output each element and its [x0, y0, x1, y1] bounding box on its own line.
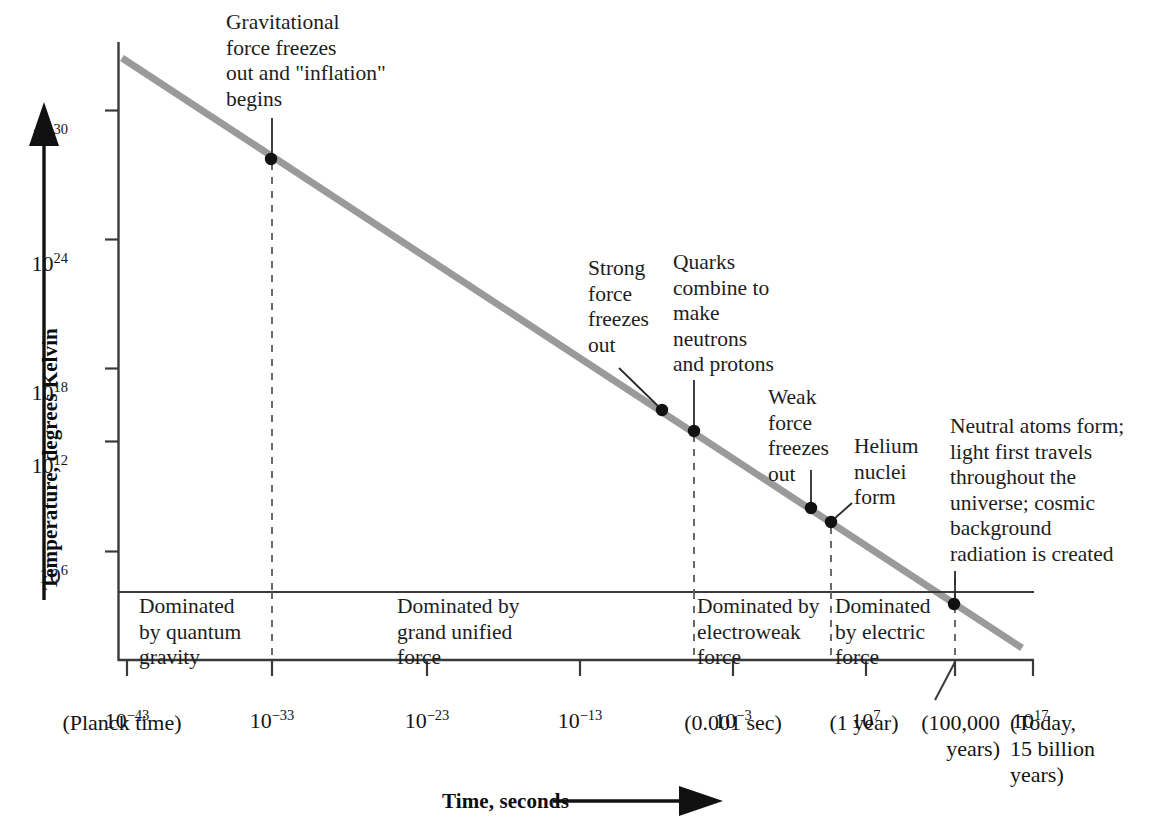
marker-neutral-atoms-form [948, 598, 960, 610]
x-tick-label-1e-33: 10−33 [250, 682, 295, 734]
marker-gravitational-force-freezes-out [265, 153, 277, 165]
x-tick-sublabel-0001-sec: (0.001 sec) [684, 710, 782, 736]
tick-leader-100000-years [935, 662, 955, 700]
y-tick-label-1e24: 1024 [31, 225, 68, 277]
region-label-electroweak-force: Dominated by electroweak force [697, 594, 819, 671]
annotation-weak-force-freezes-out: Weak force freezes out [768, 385, 829, 487]
x-tick-sublabel-today: (Today, 15 billion years) [1010, 710, 1095, 788]
region-label-quantum-gravity: Dominated by quantum gravity [139, 594, 241, 671]
x-tick-label-1e-23: 10−23 [405, 682, 450, 734]
region-label-grand-unified-force: Dominated by grand unified force [397, 594, 519, 671]
y-tick-label-1e30: 1030 [31, 96, 68, 148]
annotation-strong-force-freezes-out: Strong force freezes out [588, 256, 649, 358]
y-axis-ticks [105, 111, 119, 552]
marker-weak-force-freezes-out [805, 502, 817, 514]
x-tick-sublabel-1-year: (1 year) [829, 710, 898, 736]
x-axis-arrow [553, 786, 723, 816]
marker-quarks-combine [688, 425, 700, 437]
x-tick-label-1e-13: 10−13 [558, 682, 603, 734]
y-axis-title: Temperature, degrees Kelvin [38, 328, 63, 590]
event-solid-leaders [272, 118, 955, 600]
marker-helium-nuclei-form [825, 516, 837, 528]
annotation-quarks-combine: Quarks combine to make neutrons and prot… [673, 250, 774, 378]
x-tick-sublabel-planck-time: (Planck time) [62, 710, 181, 736]
marker-strong-force-freezes-out [656, 404, 668, 416]
annotation-gravitational-force-freezes-out: Gravitational force freezes out and "inf… [226, 10, 386, 112]
temperature-curve [122, 58, 1022, 648]
annotation-neutral-atoms-form: Neutral atoms form; light first travels … [950, 414, 1124, 567]
annotation-helium-nuclei-form: Helium nuclei form [854, 434, 919, 511]
x-axis-title: Time, seconds [442, 789, 569, 814]
leader-helium-top [834, 503, 852, 519]
cosmology-temperature-time-chart: 1030 1024 1018 1012 106 Temperature, deg… [0, 0, 1163, 831]
x-tick-sublabel-100000-years: (100,000 years) [916, 710, 1000, 762]
region-label-electric-force: Dominated by electric force [835, 594, 931, 671]
